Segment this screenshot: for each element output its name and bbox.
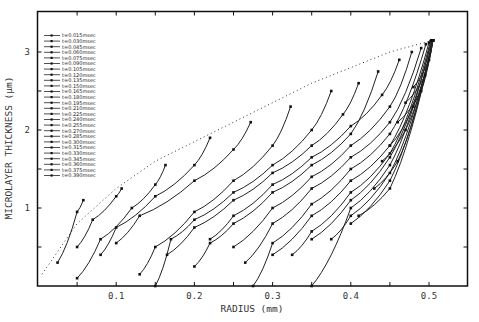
- legend-marker: [51, 40, 53, 42]
- y-tick-label: 3: [25, 47, 30, 57]
- data-marker: [120, 187, 123, 190]
- data-marker: [310, 129, 313, 132]
- data-marker: [193, 265, 196, 268]
- data-marker: [350, 125, 353, 128]
- data-marker: [166, 254, 169, 257]
- data-marker: [310, 144, 313, 147]
- data-marker: [350, 222, 353, 225]
- data-marker: [249, 121, 252, 124]
- legend-marker: [51, 107, 53, 109]
- y-axis-title: MICROLAYER THICKNESS (μm): [3, 77, 14, 220]
- x-tick-label: 0.1: [108, 291, 124, 301]
- data-marker: [232, 199, 235, 202]
- data-marker: [310, 203, 313, 206]
- data-marker: [289, 105, 292, 108]
- data-marker: [291, 254, 294, 257]
- data-marker: [381, 94, 384, 97]
- data-marker: [330, 238, 333, 241]
- data-marker: [350, 191, 353, 194]
- data-marker: [232, 215, 235, 218]
- data-marker: [310, 285, 313, 288]
- data-marker: [115, 195, 118, 198]
- data-marker: [154, 285, 157, 288]
- data-marker: [271, 207, 274, 210]
- data-marker: [432, 39, 435, 42]
- data-marker: [76, 211, 79, 214]
- data-marker: [389, 164, 392, 167]
- curve-line: [374, 40, 433, 188]
- legend-marker: [51, 57, 53, 59]
- data-marker: [350, 215, 353, 218]
- legend-marker: [51, 34, 53, 36]
- data-marker: [209, 137, 212, 140]
- curve-line: [312, 40, 432, 286]
- series-curve: [244, 47, 423, 264]
- data-marker: [154, 246, 157, 249]
- data-marker: [164, 164, 167, 167]
- series-curve: [76, 164, 167, 280]
- legend-marker: [51, 124, 53, 126]
- legend-marker: [51, 113, 53, 115]
- data-marker: [373, 187, 376, 190]
- data-marker: [350, 133, 353, 136]
- data-marker: [252, 285, 255, 288]
- x-tick-label: 0.4: [343, 291, 359, 301]
- data-marker: [310, 156, 313, 159]
- x-axis-title: RADIUS (mm): [221, 303, 284, 314]
- data-marker: [424, 74, 427, 77]
- legend-marker: [51, 74, 53, 76]
- data-marker: [350, 156, 353, 159]
- legend-marker: [51, 79, 53, 81]
- data-marker: [271, 191, 274, 194]
- data-marker: [193, 211, 196, 214]
- data-marker: [271, 242, 274, 245]
- curve-line: [167, 83, 359, 255]
- data-marker: [193, 179, 196, 182]
- data-marker: [310, 176, 313, 179]
- data-marker: [209, 242, 212, 245]
- data-marker: [350, 207, 353, 210]
- data-marker: [428, 59, 431, 62]
- data-marker: [99, 254, 102, 257]
- data-marker: [138, 273, 141, 276]
- series-curve: [232, 51, 413, 249]
- legend-marker: [51, 141, 53, 143]
- data-marker: [209, 238, 212, 241]
- data-marker: [412, 86, 415, 89]
- data-marker: [357, 82, 360, 85]
- data-marker: [271, 172, 274, 175]
- legend-marker: [51, 163, 53, 165]
- data-marker: [232, 191, 235, 194]
- data-marker: [271, 164, 274, 167]
- legend-marker: [51, 46, 53, 48]
- legend: t=0.015msect=0.030msect=0.045msect=0.060…: [44, 32, 96, 178]
- legend-marker: [51, 152, 53, 154]
- legend-label: t=0.390msec: [62, 172, 96, 178]
- data-marker: [244, 261, 247, 264]
- data-marker: [138, 215, 141, 218]
- data-marker: [404, 129, 407, 132]
- curve-line: [351, 40, 433, 223]
- y-tick-label: 1: [25, 203, 30, 213]
- legend-marker: [51, 158, 53, 160]
- y-tick-label: 2: [25, 125, 30, 135]
- data-marker: [232, 179, 235, 182]
- series-curve: [56, 199, 84, 264]
- curve-line: [155, 91, 331, 286]
- data-marker: [115, 226, 118, 229]
- data-marker: [310, 230, 313, 233]
- data-marker: [76, 246, 79, 249]
- data-marker: [357, 215, 360, 218]
- legend-marker: [51, 85, 53, 87]
- legend-marker: [51, 68, 53, 70]
- legend-marker: [51, 102, 53, 104]
- curve-line: [292, 41, 430, 255]
- data-marker: [350, 179, 353, 182]
- data-marker: [342, 113, 345, 116]
- legend-marker: [51, 118, 53, 120]
- data-marker: [350, 144, 353, 147]
- data-marker: [310, 238, 313, 241]
- chart: 0.10.20.30.40.5123 RADIUS (mm) MICROLAYE…: [0, 0, 479, 322]
- legend-marker: [51, 146, 53, 148]
- data-marker: [330, 90, 333, 93]
